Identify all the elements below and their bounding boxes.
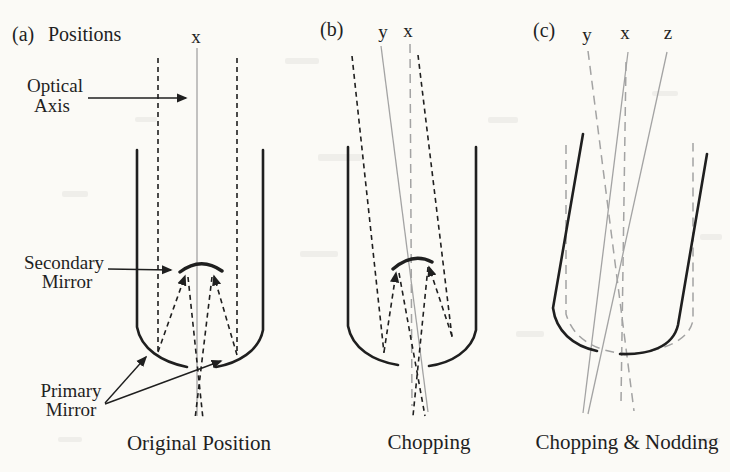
optical-axis-callout-line1: Optical: [27, 75, 83, 96]
chopped-axis-line-b: [381, 46, 428, 412]
axis-z-label-c: z: [664, 22, 672, 43]
panel-b: (b) y x Chopping: [320, 18, 476, 454]
panel-a: (a) Positions x Optical Axis Secondary M…: [12, 23, 272, 455]
original-axis-line-b: [410, 44, 412, 406]
axis-x-label-b: x: [403, 20, 413, 41]
panel-a-tag: (a): [12, 23, 34, 46]
tube-right-wall-b: [429, 147, 476, 366]
secondary-mirror-callout-line1: Secondary: [24, 252, 105, 273]
secondary-mirror-callout-line2: Mirror: [42, 271, 93, 292]
beam-axis-z-line-c: [588, 52, 667, 414]
scan-smudge: [700, 234, 722, 240]
axis-x-label-c: x: [620, 22, 630, 43]
scan-smudge: [135, 117, 157, 122]
panel-c-tag: (c): [533, 19, 555, 42]
figure-canvas: (a) Positions x Optical Axis Secondary M…: [0, 0, 730, 472]
panel-b-tag: (b): [320, 18, 343, 41]
reflected-ray-right-b: [429, 267, 452, 336]
axis-y-label-c: y: [582, 24, 592, 45]
scan-smudge: [318, 154, 362, 161]
panel-c-caption: Chopping & Nodding: [535, 430, 719, 454]
scan-smudge: [62, 191, 88, 197]
scan-smudge: [516, 331, 544, 337]
ghost-tube-outline-c: [566, 143, 693, 354]
original-axis-line-c: [621, 62, 626, 403]
reflected-ray-left-a: [158, 276, 185, 352]
tilted-tube-right-wall-c: [620, 154, 707, 354]
secondary-mirror-a: [180, 264, 222, 272]
reflected-ray-left-b: [384, 273, 396, 352]
panel-a-caption: Original Position: [127, 431, 272, 455]
scan-smudge: [652, 91, 678, 96]
axis-x-label-a: x: [191, 26, 201, 47]
panel-c: (c) y x z Chopping & Nodding: [533, 19, 719, 454]
primary-mirror-callout-line1: Primary: [40, 380, 102, 401]
panel-a-heading: Positions: [48, 23, 122, 45]
secondary-mirror-b: [393, 258, 432, 269]
incoming-ray-right-b: [418, 55, 452, 337]
beam-axis-x-line-c: [583, 52, 628, 413]
exit-ray-left-a: [188, 277, 203, 419]
reflected-ray-right-a: [214, 276, 237, 355]
tube-left-wall-a: [137, 150, 187, 367]
scan-smudge: [300, 251, 338, 257]
tilted-tube-left-wall-c: [553, 134, 597, 351]
tube-right-wall-a: [216, 150, 263, 367]
optical-axis-callout-line2: Axis: [34, 95, 70, 116]
panel-b-caption: Chopping: [388, 430, 471, 454]
scan-smudge: [58, 437, 82, 442]
primary-mirror-callout-line2: Mirror: [46, 399, 97, 420]
axis-y-label-b: y: [378, 21, 388, 42]
incoming-ray-left-b: [352, 56, 384, 353]
telescope-chopping-figure: (a) Positions x Optical Axis Secondary M…: [0, 0, 730, 472]
scan-smudge: [285, 58, 319, 64]
secondary-mirror-pointer-arrow: [108, 269, 171, 270]
old-chop-axis-line-c: [588, 51, 634, 411]
scan-smudge: [488, 117, 518, 123]
